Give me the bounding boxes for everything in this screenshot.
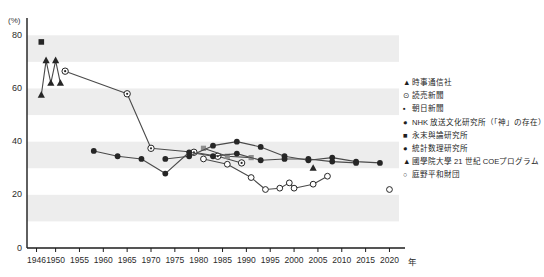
legend-item: ⊙読売新聞 [403, 91, 543, 102]
legend-marker-target-circle-icon: ⊙ [403, 91, 412, 102]
legend-marker-filled-circle-icon: ● [403, 144, 412, 155]
data-point-filled-circle [329, 159, 335, 165]
background-band [27, 195, 399, 222]
legend-label: 朝日新聞 [412, 104, 444, 115]
background-band [27, 88, 399, 115]
chart-legend: ▲時事通信社⊙読売新聞▪朝日新聞●NHK 放送文化研究所（「神」の存在）■永末與… [403, 78, 543, 184]
y-axis-unit-label: (%) [8, 16, 20, 25]
data-point-open-circle [263, 187, 269, 193]
data-point-open-circle [387, 187, 393, 193]
data-point-filled-circle [234, 139, 240, 145]
data-point-filled-triangle [57, 79, 64, 86]
series-8 [387, 187, 393, 193]
data-point-filled-circle [210, 143, 216, 149]
legend-marker-small-square-icon: ▪ [403, 104, 412, 115]
data-point-open-circle [291, 185, 297, 191]
legend-item: ■永末與論研究所 [403, 131, 543, 142]
y-axis-tick-label: 80 [2, 30, 22, 40]
data-point-filled-circle [210, 153, 216, 159]
legend-marker-filled-triangle-icon: ▲ [403, 78, 412, 89]
x-axis-unit-label: 年 [408, 255, 417, 267]
data-point-target-circle-center [241, 162, 243, 164]
data-point-filled-circle [234, 151, 240, 157]
y-axis-tick-label: 60 [2, 83, 22, 93]
y-axis-tick-label: 0 [2, 243, 22, 253]
data-point-filled-circle [377, 160, 383, 166]
data-point-filled-circle [162, 156, 168, 162]
legend-marker-filled-triangle-icon: ▲ [403, 157, 412, 168]
legend-label: 読売新聞 [412, 91, 444, 102]
legend-item: ▲國學院大學 21 世紀 COEプログラム [403, 157, 543, 168]
y-axis-tick-label: 40 [2, 136, 22, 146]
data-point-filled-circle [282, 156, 288, 162]
data-point-target-circle-center [150, 147, 152, 149]
series-4 [39, 39, 45, 45]
data-point-filled-circle [115, 153, 121, 159]
cutoff-header-text [10, 0, 240, 9]
x-axis-tick-label: 2020 [372, 255, 406, 265]
legend-marker-open-circle-icon: ○ [403, 170, 412, 181]
data-point-filled-circle [258, 144, 264, 150]
data-point-open-circle [286, 180, 292, 186]
legend-item: ●統計数理研究所 [403, 144, 543, 155]
y-axis-tick-label: 20 [2, 189, 22, 199]
data-point-open-circle [248, 175, 254, 181]
data-point-filled-circle [305, 156, 311, 162]
legend-item: ▲時事通信社 [403, 78, 543, 89]
data-point-filled-circle [139, 156, 145, 162]
data-point-open-circle [224, 161, 230, 167]
data-point-open-circle [325, 173, 331, 179]
legend-item: ○庭野平和財団 [403, 170, 543, 181]
data-point-target-circle-center [126, 93, 128, 95]
legend-item: ▪朝日新聞 [403, 104, 543, 115]
data-point-filled-circle [186, 149, 192, 155]
data-point-open-circle [277, 185, 283, 191]
legend-label: 庭野平和財団 [412, 170, 460, 181]
legend-item: ●NHK 放送文化研究所（「神」の存在） [403, 118, 543, 129]
legend-label: 永末與論研究所 [412, 131, 468, 142]
data-point-filled-circle [258, 157, 264, 163]
data-point-open-circle [310, 181, 316, 187]
data-point-filled-circle [91, 148, 97, 154]
data-point-filled-circle [353, 160, 359, 166]
data-point-open-circle [201, 156, 207, 162]
legend-label: NHK 放送文化研究所（「神」の存在） [412, 118, 544, 129]
data-point-filled-circle [162, 171, 168, 177]
legend-label: 國學院大學 21 世紀 COEプログラム [412, 157, 539, 168]
legend-label: 時事通信社 [412, 78, 452, 89]
chart-container: (%) 020406080 19461950195519601965197019… [0, 0, 544, 277]
legend-marker-filled-square-icon: ■ [403, 131, 412, 142]
data-point-target-circle-center [64, 70, 66, 72]
legend-label: 統計数理研究所 [412, 144, 468, 155]
legend-marker-filled-circle-icon: ● [403, 118, 412, 129]
background-band [27, 35, 399, 62]
data-point-filled-square [39, 39, 45, 45]
data-point-filled-triangle [47, 79, 54, 86]
